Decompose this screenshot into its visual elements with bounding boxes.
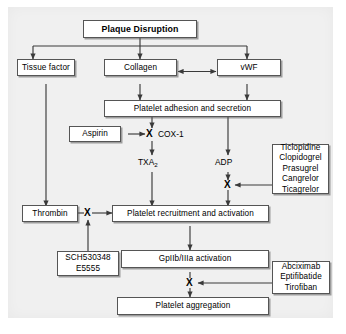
label-cox1-text: COX-1 xyxy=(158,129,184,139)
node-vwf[interactable]: vWF xyxy=(217,59,281,76)
label-txa2-subscript: 2 xyxy=(154,161,157,168)
node-tissue-factor[interactable]: Tissue factor xyxy=(17,59,75,76)
drug-prasugrel: Prasugrel xyxy=(283,164,319,175)
inhibition-marker-gpiibiiia-icon: X xyxy=(186,278,193,288)
drug-clopidogrel: Clopidogrel xyxy=(279,153,322,164)
label-txa2: TXA2 xyxy=(138,158,158,166)
node-tissue-factor-label: Tissue factor xyxy=(22,63,70,72)
node-plaque-disruption-label: Plaque Disruption xyxy=(102,24,179,34)
inhibition-marker-cox1-icon: X xyxy=(146,129,153,139)
drug-box-gpiibiiia-inhibitors[interactable]: Abciximab Eptifibatide Tirofiban xyxy=(272,261,330,294)
drug-box-par1-antagonists[interactable]: SCH530348 E5555 xyxy=(57,251,119,276)
label-adp-text: ADP xyxy=(215,157,232,167)
node-aspirin[interactable]: Aspirin xyxy=(69,126,121,142)
node-platelet-aggregation[interactable]: Platelet aggregation xyxy=(117,297,269,315)
inhibition-marker-thrombin-icon: X xyxy=(84,208,91,218)
node-platelet-adhesion[interactable]: Platelet adhesion and secretion xyxy=(104,100,281,117)
node-collagen[interactable]: Collagen xyxy=(104,59,177,76)
drug-abciximab: Abciximab xyxy=(282,262,321,273)
drug-e5555: E5555 xyxy=(76,264,100,275)
drug-box-p2y12-inhibitors[interactable]: Ticlopidine Clopidogrel Prasugrel Cangre… xyxy=(272,144,329,194)
drug-tirofiban: Tirofiban xyxy=(285,283,317,294)
drug-sch530348: SCH530348 xyxy=(65,253,111,264)
node-plaque-disruption[interactable]: Plaque Disruption xyxy=(83,20,197,38)
node-gpiibiiia-activation-label: GpIIb/IIIa activation xyxy=(159,254,232,263)
drug-cangrelor: Cangrelor xyxy=(282,174,319,185)
label-txa2-base: TXA xyxy=(138,157,154,167)
drug-ticagrelor: Ticagrelor xyxy=(282,185,319,196)
node-aspirin-label: Aspirin xyxy=(82,129,108,138)
node-thrombin-label: Thrombin xyxy=(32,209,67,218)
inhibition-marker-adp-icon: X xyxy=(224,180,231,190)
flowchart-figure: Plaque Disruption Tissue factor Collagen… xyxy=(0,0,346,334)
node-vwf-label: vWF xyxy=(240,63,257,72)
drug-eptifibatide: Eptifibatide xyxy=(280,272,322,283)
node-thrombin[interactable]: Thrombin xyxy=(22,205,78,222)
label-adp: ADP xyxy=(215,158,232,166)
label-cox1: COX-1 xyxy=(158,130,184,138)
node-platelet-adhesion-label: Platelet adhesion and secretion xyxy=(134,104,251,113)
drug-ticlopidine: Ticlopidine xyxy=(281,143,321,154)
node-collagen-label: Collagen xyxy=(124,63,157,72)
node-platelet-recruitment[interactable]: Platelet recruitment and activation xyxy=(112,205,269,222)
node-platelet-recruitment-label: Platelet recruitment and activation xyxy=(127,209,254,218)
node-platelet-aggregation-label: Platelet aggregation xyxy=(156,301,231,310)
node-gpiibiiia-activation[interactable]: GpIIb/IIIa activation xyxy=(121,250,269,268)
